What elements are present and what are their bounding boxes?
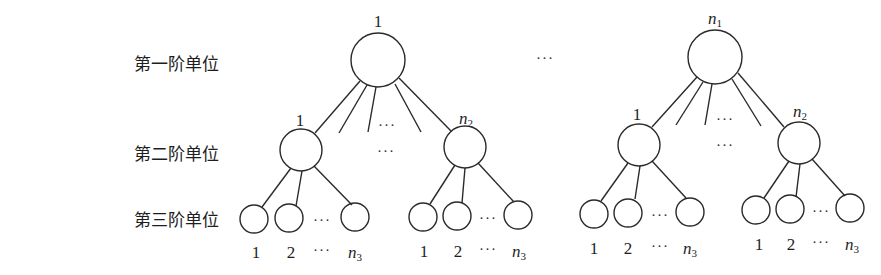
leaf-ellipsis: ··· [479, 211, 497, 226]
leaf-ellipsis: ··· [313, 243, 331, 258]
leaf-label: n3 [512, 243, 526, 262]
tree1-root-label: 1 [374, 13, 383, 30]
leaf-ellipsis: ··· [651, 208, 669, 223]
leaf-node [676, 198, 704, 226]
leaf-node [836, 194, 864, 222]
tree-graphics [0, 0, 881, 275]
ellipsis-between-trees: ··· [536, 51, 554, 66]
leaf-node [504, 201, 532, 229]
leaf-label: 2 [787, 236, 796, 253]
leaf-label: 1 [420, 243, 429, 260]
leaf-ellipsis: ··· [651, 239, 669, 254]
leaf-label: n3 [348, 244, 362, 263]
leaf-label: n3 [683, 240, 697, 259]
leaf-ellipsis: ··· [479, 242, 497, 257]
leaf-label: 1 [252, 244, 261, 261]
ellipsis: ··· [716, 138, 734, 153]
leaf-ellipsis: ··· [812, 204, 830, 219]
leaf-label: 1 [590, 240, 599, 257]
ellipsis: ··· [377, 144, 395, 159]
level1-label: 第一阶单位 [134, 50, 219, 75]
leaf-ellipsis: ··· [313, 213, 331, 228]
leaf-label: 2 [454, 243, 463, 260]
hierarchy-diagram: 第一阶单位 第二阶单位 第三阶单位 1 ··· n1 1 ··· ··· n2 … [0, 0, 881, 275]
level3-label: 第三阶单位 [134, 206, 219, 231]
leaf-node [614, 199, 642, 227]
leaf-node [580, 200, 608, 228]
tree2-child-n2-node [778, 122, 820, 164]
tree2-root-label: n1 [708, 10, 722, 29]
leaf-node [409, 203, 437, 231]
leaf-node [443, 202, 471, 230]
tree1-child-1-label: 1 [296, 112, 305, 129]
tree1-child-n2-node [444, 126, 486, 168]
leaf-node [275, 204, 303, 232]
ellipsis: ··· [716, 112, 734, 127]
leaf-node [742, 196, 770, 224]
tree2-child-n2-label: n2 [793, 103, 807, 122]
leaf-label: 2 [287, 244, 296, 261]
leaf-node [240, 205, 268, 233]
leaf-node [341, 203, 369, 231]
tree1-child-1-node [280, 129, 322, 171]
leaf-node [776, 195, 804, 223]
leaf-ellipsis: ··· [812, 235, 830, 250]
tree2-root-node [688, 30, 742, 84]
tree2-child-1-node [618, 124, 660, 166]
leaf-label: n3 [845, 236, 859, 255]
tree1-child-n2-label: n2 [459, 110, 473, 129]
ellipsis: ··· [378, 118, 396, 133]
leaf-label: 2 [624, 240, 633, 257]
leaf-label: 1 [755, 236, 764, 253]
tree2-child-1-label: 1 [633, 106, 642, 123]
tree1-root-node [351, 33, 405, 87]
level2-label: 第二阶单位 [134, 140, 219, 165]
